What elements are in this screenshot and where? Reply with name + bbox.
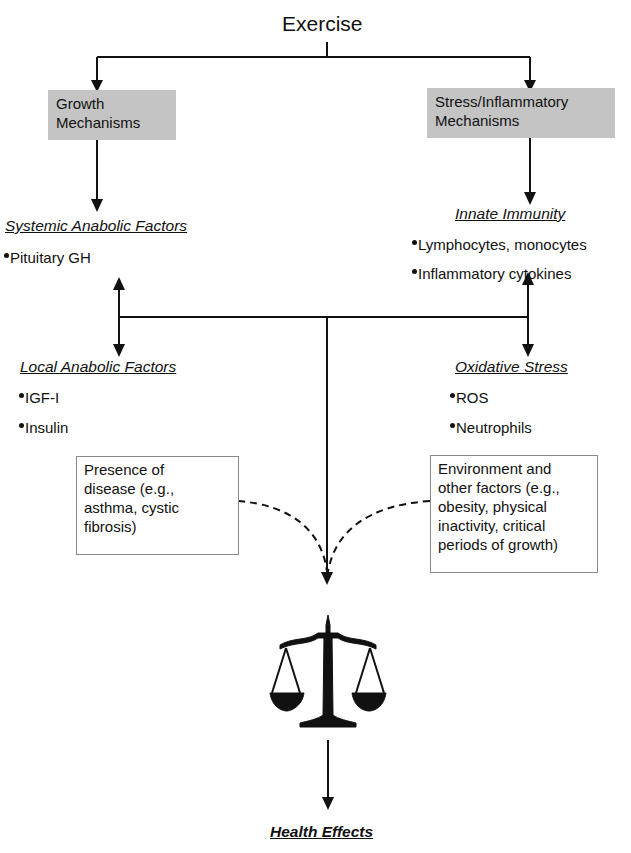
growth-mechanisms-box: Growth Mechanisms xyxy=(48,90,176,140)
environment-line: inactivity, critical xyxy=(438,516,590,535)
bullet-icon xyxy=(450,423,455,428)
disease-line: Presence of xyxy=(84,460,231,479)
balance-scale-icon xyxy=(268,615,388,740)
innate-immunity-header: Innate Immunity xyxy=(455,205,565,223)
stress-box-line-1: Stress/Inflammatory xyxy=(435,92,607,111)
environment-line: periods of growth) xyxy=(438,535,590,554)
disease-line: fibrosis) xyxy=(84,517,231,536)
innate-item: Inflammatory cytokines xyxy=(412,265,571,282)
local-item: Insulin xyxy=(19,419,68,436)
disease-modifier-box: Presence of disease (e.g., asthma, cysti… xyxy=(76,456,239,555)
bullet-icon xyxy=(19,393,24,398)
bullet-icon xyxy=(412,269,417,274)
bullet-icon xyxy=(450,393,455,398)
bullet-icon xyxy=(19,423,24,428)
environment-line: Environment and xyxy=(438,459,590,478)
environment-modifier-box: Environment and other factors (e.g., obe… xyxy=(430,455,598,573)
innate-item: Lymphocytes, monocytes xyxy=(412,236,587,253)
disease-line: asthma, cystic xyxy=(84,498,231,517)
bullet-icon xyxy=(4,253,9,258)
environment-line: other factors (e.g., xyxy=(438,478,590,497)
local-item: IGF-I xyxy=(19,389,59,406)
oxidative-item: Neutrophils xyxy=(450,419,532,436)
oxidative-stress-header: Oxidative Stress xyxy=(455,358,568,376)
growth-box-line-2: Mechanisms xyxy=(56,113,168,132)
oxidative-item: ROS xyxy=(450,389,489,406)
environment-line: obesity, physical xyxy=(438,497,590,516)
systemic-item: Pituitary GH xyxy=(4,249,91,266)
root-exercise: Exercise xyxy=(282,12,363,36)
systemic-anabolic-header: Systemic Anabolic Factors xyxy=(5,217,187,235)
local-anabolic-header: Local Anabolic Factors xyxy=(20,358,176,376)
stress-box-line-2: Mechanisms xyxy=(435,111,607,130)
disease-line: disease (e.g., xyxy=(84,479,231,498)
growth-box-line-1: Growth xyxy=(56,94,168,113)
health-effects-label: Health Effects xyxy=(270,823,373,841)
bullet-icon xyxy=(412,240,417,245)
stress-mechanisms-box: Stress/Inflammatory Mechanisms xyxy=(427,88,615,138)
